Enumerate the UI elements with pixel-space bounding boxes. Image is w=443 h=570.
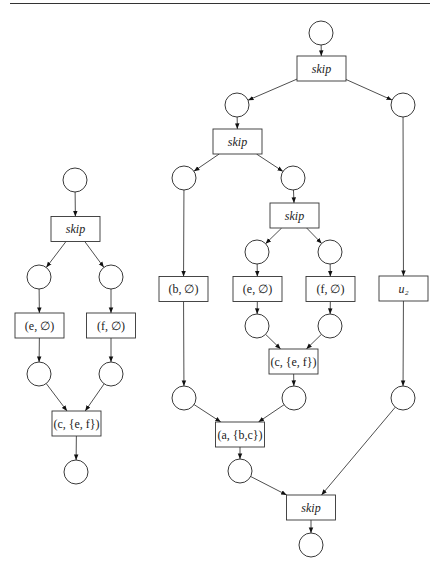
transition-s10: skip <box>287 495 336 520</box>
transition-label: (f, ∅) <box>317 282 345 296</box>
transition-s8: (c, {e, f}) <box>269 349 318 374</box>
place-q9 <box>318 314 342 338</box>
place-q14 <box>299 533 323 557</box>
place-q2 <box>225 93 249 117</box>
arc-s2-to-q5 <box>257 154 283 171</box>
transition-label: skip <box>312 62 331 76</box>
place-p4 <box>27 362 51 386</box>
arc-s1-to-q3 <box>346 79 392 100</box>
place-q6 <box>245 240 269 264</box>
arc-q13-to-s10 <box>251 476 287 495</box>
transition-t1: skip <box>51 217 100 242</box>
place-q1 <box>309 21 333 45</box>
place-p3 <box>99 265 123 289</box>
place-q4 <box>172 166 196 190</box>
transition-label: (a, {b,c}) <box>217 428 262 442</box>
transition-label: (e, ∅) <box>25 319 54 333</box>
transition-label: (e, ∅) <box>243 282 272 296</box>
arc-t1-to-p2 <box>46 242 66 268</box>
transition-s9: (a, {b,c}) <box>216 422 265 447</box>
arc-p5-to-t4 <box>85 384 104 411</box>
arc-q11-to-s9 <box>258 405 284 422</box>
transition-s1: skip <box>297 56 346 81</box>
transition-label: skip <box>66 222 85 236</box>
transition-s5: (e, ∅) <box>233 277 282 302</box>
transition-s4: (b, ∅) <box>159 277 208 302</box>
arc-s2-to-q4 <box>194 154 219 171</box>
place-q5 <box>281 166 305 190</box>
arc-p4-to-t4 <box>46 384 67 411</box>
transition-s2: skip <box>213 129 262 154</box>
transition-label: (c, {e, f}) <box>270 355 316 369</box>
place-p1 <box>63 168 87 192</box>
place-q11 <box>282 386 306 410</box>
place-q3 <box>391 93 415 117</box>
transition-t4: (c, {e, f}) <box>52 411 101 436</box>
transition-s3: skip <box>270 203 319 228</box>
place-p6 <box>64 460 88 484</box>
place-q13 <box>228 459 252 483</box>
arc-s1-to-q2 <box>248 79 297 100</box>
transition-label: u₂ <box>398 282 408 296</box>
transition-t2: (e, ∅) <box>15 313 64 338</box>
transition-label: skip <box>285 209 304 223</box>
transition-s6: (f, ∅) <box>306 277 355 302</box>
transition-label: (c, {e, f}) <box>53 417 99 431</box>
place-p2 <box>27 265 51 289</box>
arc-q8-to-s8 <box>266 334 281 349</box>
place-q10 <box>172 386 196 410</box>
place-q12 <box>391 386 415 410</box>
place-q8 <box>245 314 269 338</box>
arc-q10-to-s9 <box>194 405 221 422</box>
place-q7 <box>318 240 342 264</box>
transition-t3: (f, ∅) <box>87 313 136 338</box>
transition-s7: u₂ <box>379 276 428 301</box>
place-p5 <box>99 362 123 386</box>
petri-net-diagram: skip(e, ∅)(f, ∅)(c, {e, f})skipskipskip(… <box>0 0 443 570</box>
transition-label: (b, ∅) <box>169 282 199 296</box>
arc-t1-to-p3 <box>85 242 104 268</box>
arc-s3-to-q6 <box>266 228 282 244</box>
transition-label: skip <box>301 501 320 515</box>
transition-label: skip <box>228 135 247 149</box>
arc-q9-to-s8 <box>306 334 321 349</box>
arc-s3-to-q7 <box>307 228 322 243</box>
arc-q5-to-s3 <box>293 190 294 203</box>
transition-label: (f, ∅) <box>97 319 125 333</box>
arc-q12-to-s10 <box>322 407 396 495</box>
